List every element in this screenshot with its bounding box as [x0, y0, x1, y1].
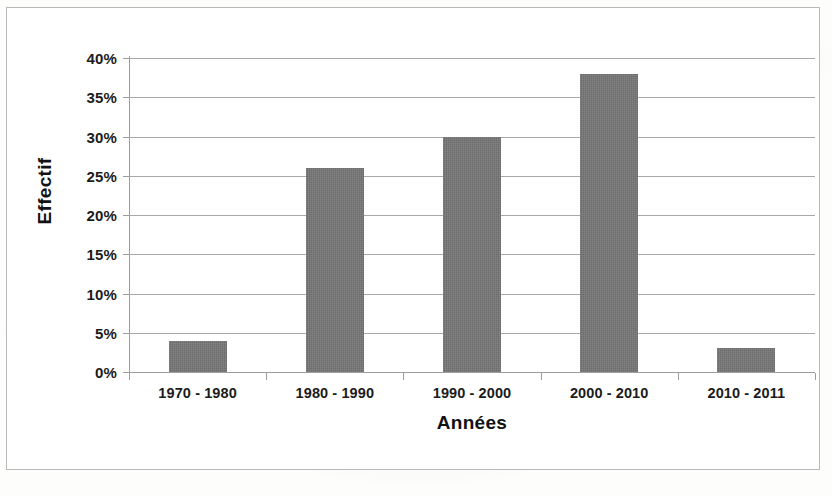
y-axis-tick-label: 0%	[57, 364, 117, 381]
y-axis-tick	[123, 58, 129, 59]
gridline	[129, 58, 815, 59]
y-axis-tick-label: 10%	[57, 285, 117, 302]
y-axis-tick	[123, 254, 129, 255]
y-axis-tick-label: 30%	[57, 128, 117, 145]
y-axis-tick-label: 25%	[57, 167, 117, 184]
x-axis-tick	[541, 373, 542, 380]
bar	[306, 168, 364, 372]
x-axis-line	[129, 372, 815, 373]
gridline	[129, 97, 815, 98]
y-axis-tick	[123, 215, 129, 216]
bar	[580, 74, 638, 372]
y-axis-tick	[123, 294, 129, 295]
x-axis-title: Années	[129, 412, 815, 434]
y-axis-tick	[123, 137, 129, 138]
bar	[717, 348, 775, 372]
y-axis-tick-label: 20%	[57, 207, 117, 224]
x-axis-tick	[266, 373, 267, 380]
x-axis-tick-label: 1970 - 1980	[128, 385, 268, 401]
chart-frame: Effectif 40%35%30%25%20%15%10%5%0% Année…	[6, 7, 820, 470]
y-axis-tick-label: 35%	[57, 89, 117, 106]
x-axis-tick-label: 1980 - 1990	[265, 385, 405, 401]
x-axis-tick	[129, 373, 130, 380]
bar	[443, 137, 501, 373]
x-axis-tick	[815, 373, 816, 380]
y-axis-tick	[123, 333, 129, 334]
x-axis-tick	[403, 373, 404, 380]
bar	[169, 341, 227, 372]
y-axis-tick	[123, 97, 129, 98]
y-axis-tick-label: 40%	[57, 50, 117, 67]
y-axis-tick-label: 5%	[57, 324, 117, 341]
y-axis-tick-labels: 40%35%30%25%20%15%10%5%0%	[53, 8, 117, 469]
x-axis-tick	[678, 373, 679, 380]
x-axis-tick-label: 2000 - 2010	[539, 385, 679, 401]
y-axis-tick-label: 15%	[57, 246, 117, 263]
x-axis-tick-label: 1990 - 2000	[402, 385, 542, 401]
plot-area	[129, 58, 815, 372]
x-axis-tick-label: 2010 - 2011	[676, 385, 816, 401]
y-axis-tick	[123, 176, 129, 177]
